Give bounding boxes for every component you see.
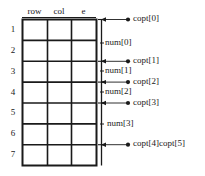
span-label-num-3: num[3] xyxy=(107,118,134,128)
span-label-num-1: num[1] xyxy=(105,65,132,75)
boundary-label-copt-2: copt[2] xyxy=(133,76,159,86)
row-label-2: 2 xyxy=(7,45,19,55)
row-label-3: 3 xyxy=(7,66,19,76)
diagram-figure: row col e 1 2 3 4 5 6 7 copt[0] copt[1] … xyxy=(0,0,205,176)
table-outer-border xyxy=(23,20,97,166)
row-label-6: 6 xyxy=(7,128,19,138)
span-label-num-2: num[2] xyxy=(105,86,132,96)
row-label-1: 1 xyxy=(7,24,19,34)
leader-arrow-4 xyxy=(101,143,130,147)
row-label-7: 7 xyxy=(7,149,19,159)
boundary-label-copt-3: copt[3] xyxy=(133,97,159,107)
span-label-num-0: num[0] xyxy=(105,37,132,47)
boundary-label-copt-4-5: copt[4]copt[5] xyxy=(133,138,185,148)
column-header-col: col xyxy=(47,6,71,16)
row-label-4: 4 xyxy=(7,87,19,97)
boundary-label-copt-0: copt[0] xyxy=(133,13,159,23)
diagram-canvas xyxy=(0,0,205,176)
row-label-5: 5 xyxy=(7,107,19,117)
leader-arrow-0 xyxy=(101,17,130,21)
leader-arrow-3 xyxy=(101,101,130,105)
column-header-row: row xyxy=(22,6,47,16)
leader-arrow-1 xyxy=(101,59,130,63)
column-header-e: e xyxy=(71,6,96,16)
boundary-label-copt-1: copt[1] xyxy=(133,55,159,65)
leader-arrow-2 xyxy=(101,80,130,84)
